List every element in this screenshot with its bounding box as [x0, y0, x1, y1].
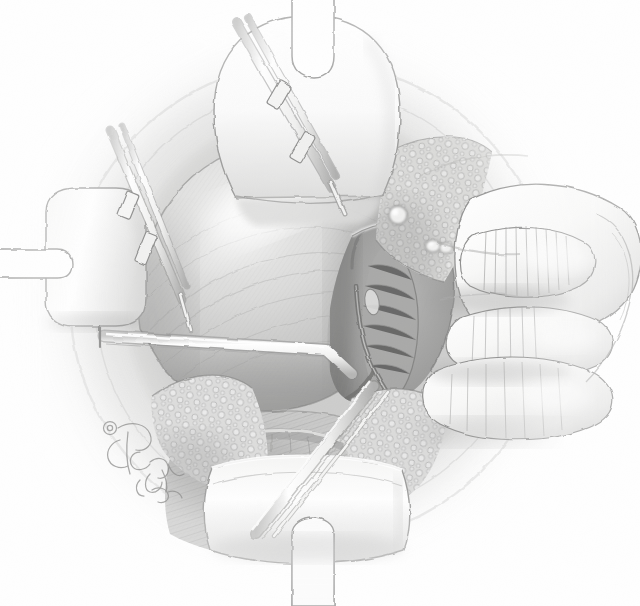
surgical-illustration: Operative field exposure with self-retai… [0, 0, 640, 606]
paper-grain [0, 0, 640, 606]
illustration-canvas [0, 0, 640, 606]
